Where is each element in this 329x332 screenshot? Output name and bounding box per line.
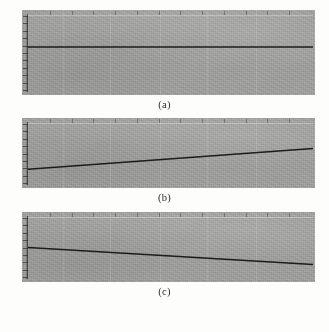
plot-panel-a: [22, 10, 315, 95]
data-line-b-svg: [22, 118, 315, 188]
cut-off-figure-caption: [0, 325, 329, 332]
panel-caption-a: (a): [0, 99, 329, 110]
data-line-c-svg: [22, 212, 315, 282]
data-line-a-svg: [22, 10, 315, 95]
plot-panel-c: [22, 212, 315, 282]
data-line-b: [22, 118, 315, 188]
data-line-c: [22, 212, 315, 282]
panel-caption-c: (c): [0, 286, 329, 297]
plot-panel-b: [22, 118, 315, 188]
figure-three-trend-panels: (a) (b): [0, 0, 329, 332]
panel-caption-b: (b): [0, 192, 329, 203]
data-line-a: [22, 10, 315, 95]
